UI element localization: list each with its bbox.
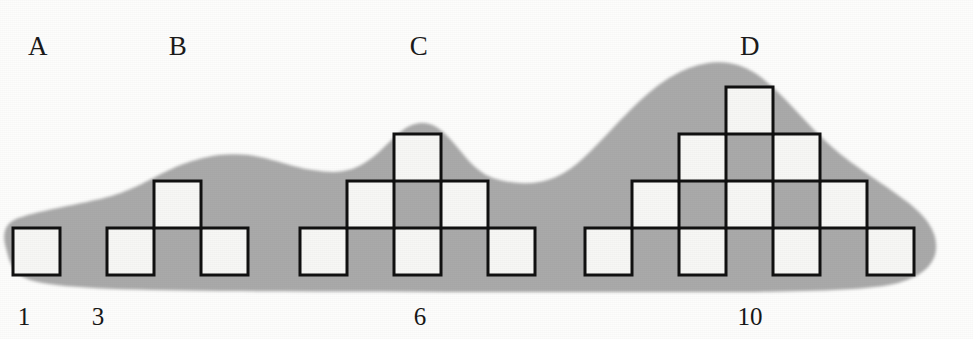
unit-square-b-3 [154,181,201,228]
unit-square-d-1 [585,228,632,275]
unit-square-c-1 [300,228,347,275]
unit-square-a-1 [13,228,60,275]
unit-square-b-1 [107,228,154,275]
group-label-a: A [28,33,48,60]
unit-square-d-3 [773,228,820,275]
group-label-c: C [410,33,429,60]
unit-square-d-2 [679,228,726,275]
figure-canvas: A B C D 1 3 6 10 [0,0,973,339]
group-label-b: B [169,33,188,60]
unit-square-d-5 [632,181,679,228]
count-label-c: 6 [414,304,427,329]
unit-square-b-2 [201,228,248,275]
unit-square-d-8 [679,134,726,181]
count-label-d: 10 [738,304,763,329]
unit-square-d-4 [867,228,914,275]
unit-square-d-6 [726,181,773,228]
unit-square-d-10 [726,87,773,134]
unit-square-c-5 [441,181,488,228]
unit-square-c-6 [394,134,441,181]
unit-square-c-3 [488,228,535,275]
unit-square-d-7 [820,181,867,228]
count-label-a: 1 [18,304,31,329]
unit-square-c-2 [394,228,441,275]
squares-layer [0,0,973,339]
count-label-b: 3 [92,304,105,329]
unit-square-c-4 [347,181,394,228]
unit-square-d-9 [773,134,820,181]
group-label-d: D [740,33,760,60]
